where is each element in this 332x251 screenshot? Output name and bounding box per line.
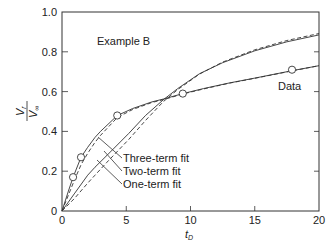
y-tick-label: 0 (51, 205, 57, 217)
curves (62, 34, 319, 212)
svg-text:V∞: V∞ (27, 106, 40, 118)
label-data: Data (278, 80, 302, 92)
x-tick-label: 20 (313, 214, 325, 226)
x-tick-label: 0 (59, 214, 65, 226)
x-tick-label: 15 (249, 214, 261, 226)
data-point (288, 66, 295, 73)
y-tick-label: 0.2 (42, 165, 57, 177)
leader-three-term (98, 137, 122, 158)
y-tick-label: 0.8 (42, 46, 57, 58)
label-one-term-fit: One-term fit (123, 178, 181, 190)
data-point (179, 90, 186, 97)
svg-text:tD: tD (185, 228, 193, 241)
data-point (114, 112, 121, 119)
series-one-term-fit (62, 34, 319, 212)
data-point (69, 174, 76, 181)
svg-text:Vr: Vr (14, 106, 27, 116)
label-two-term-fit: Two-term fit (123, 165, 180, 177)
ticks: 0510152000.20.40.60.81.0 (42, 6, 325, 226)
leader-one-term (97, 160, 122, 184)
label-three-term-fit: Three-term fit (123, 152, 189, 164)
y-axis-title: Vr V∞ (14, 101, 40, 121)
leader-two-term (104, 151, 122, 171)
x-axis-title-sub: D (188, 234, 193, 241)
y-axis-title-den-sub: ∞ (33, 106, 40, 111)
y-tick-label: 0.6 (42, 86, 57, 98)
y-axis-title-num-sub: r (20, 106, 27, 109)
data-point (77, 154, 84, 161)
chart: 0510152000.20.40.60.81.0 Example B Data … (0, 0, 332, 251)
x-tick-label: 5 (123, 214, 129, 226)
y-tick-label: 0.4 (42, 125, 57, 137)
x-axis-title: tD (185, 228, 193, 241)
x-tick-label: 10 (184, 214, 196, 226)
annotation-example-b: Example B (97, 35, 150, 47)
series-two-term-fit (62, 35, 319, 211)
y-tick-label: 1.0 (42, 6, 57, 18)
